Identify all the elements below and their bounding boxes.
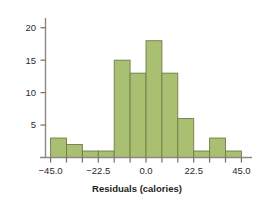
histogram-bar <box>146 41 162 158</box>
histogram-bar <box>226 151 242 157</box>
y-tick-label: 20 <box>25 22 36 33</box>
x-tick-label: −45.0 <box>39 165 63 176</box>
x-axis-ticks <box>51 158 242 163</box>
histogram-bar <box>162 73 178 157</box>
histogram-bar <box>82 151 98 157</box>
x-axis-tick-labels: −45.0−22.50.022.545.0 <box>39 165 251 176</box>
histogram-bar <box>67 145 83 158</box>
histogram-bar <box>178 119 194 158</box>
y-tick-label: 15 <box>25 55 36 66</box>
x-tick-label: 45.0 <box>232 165 251 176</box>
histogram-bar <box>210 138 226 157</box>
histogram-bar <box>114 60 130 157</box>
histogram-figure: 5101520 −45.0−22.50.022.545.0 Residuals … <box>0 0 273 200</box>
histogram-bar <box>51 138 67 157</box>
histogram-bar <box>130 73 146 157</box>
histogram-bar <box>194 151 210 157</box>
y-axis-tick-labels: 5101520 <box>25 22 36 130</box>
y-tick-label: 5 <box>31 119 36 130</box>
x-tick-label: 0.0 <box>139 165 152 176</box>
y-tick-label: 10 <box>25 87 36 98</box>
histogram-plot: 5101520 −45.0−22.50.022.545.0 Residuals … <box>0 0 273 200</box>
x-axis-title: Residuals (calories) <box>92 183 182 194</box>
histogram-bar <box>98 151 114 157</box>
x-tick-label: 22.5 <box>184 165 203 176</box>
y-axis-ticks <box>41 28 46 125</box>
bars-group <box>51 41 242 158</box>
x-tick-label: −22.5 <box>86 165 110 176</box>
